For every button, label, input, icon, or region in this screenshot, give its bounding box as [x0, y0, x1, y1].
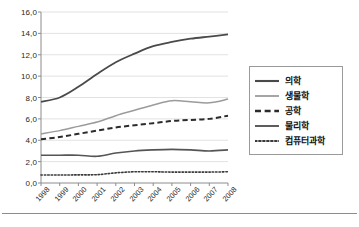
y-tick-label: 12,0 [21, 50, 37, 59]
plot-area [41, 12, 228, 183]
x-tick-label: 1999 [52, 185, 70, 203]
y-tick-label: 14,0 [21, 29, 37, 38]
legend-label: 공학 [285, 104, 301, 117]
x-tick-label: 2008 [221, 185, 239, 203]
legend-label: 생물학 [285, 89, 309, 102]
y-tick-label: 10,0 [21, 72, 37, 81]
gridlines [41, 12, 228, 162]
legend-item-1[interactable]: 생물학 [255, 88, 336, 103]
legend-item-4[interactable]: 컴퓨터과학 [255, 133, 336, 148]
x-tick-label: 2007 [202, 185, 220, 203]
legend-label: 물리학 [285, 119, 309, 132]
chart-legend: 의학생물학공학물리학컴퓨터과학 [249, 66, 343, 155]
legend-swatch-icon [255, 106, 279, 116]
y-tick-label: 8,0 [26, 93, 37, 102]
x-tick-label: 2003 [127, 185, 145, 203]
plot-canvas [41, 12, 228, 183]
y-tick-label: 4,0 [26, 136, 37, 145]
x-tick-label: 2006 [183, 185, 201, 203]
legend-swatch-icon [255, 76, 279, 86]
x-tick-label: 2004 [146, 185, 164, 203]
line-chart-figure: 0,02,04,06,08,010,012,014,016,0 19981999… [0, 0, 359, 227]
y-tick-label: 6,0 [26, 114, 37, 123]
series-line-1 [41, 99, 228, 134]
series-lines [41, 34, 228, 175]
legend-item-3[interactable]: 물리학 [255, 118, 336, 133]
series-line-3 [41, 149, 228, 156]
legend-swatch-icon [255, 91, 279, 101]
legend-label: 컴퓨터과학 [285, 134, 325, 147]
y-tick-label: 2,0 [26, 157, 37, 166]
y-tick-label: 16,0 [21, 8, 37, 17]
x-tick-label: 1998 [34, 185, 52, 203]
legend-label: 의학 [285, 74, 301, 87]
x-tick-label: 2005 [165, 185, 183, 203]
y-tick-label: 0,0 [26, 179, 37, 188]
legend-swatch-icon [255, 121, 279, 131]
x-tick-label: 2002 [108, 185, 126, 203]
x-tick-label: 2000 [71, 185, 89, 203]
x-axis-tick-labels: 1998199920002001200220032004200520062007… [41, 183, 241, 223]
series-line-0 [41, 34, 228, 101]
series-line-4 [41, 172, 228, 175]
legend-swatch-icon [255, 136, 279, 146]
x-tick-label: 2001 [90, 185, 108, 203]
legend-item-0[interactable]: 의학 [255, 73, 336, 88]
y-axis-tick-labels: 0,02,04,06,08,010,012,014,016,0 [0, 12, 37, 183]
legend-item-2[interactable]: 공학 [255, 103, 336, 118]
bottom-divider [2, 213, 357, 214]
